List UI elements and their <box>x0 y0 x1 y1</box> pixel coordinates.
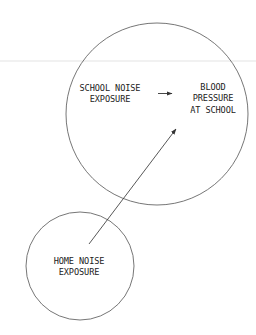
node-label-line: BLOOD <box>187 82 239 93</box>
node-blood-pressure-at-school: BLOOD PRESSURE AT SCHOOL <box>187 82 239 115</box>
node-school-noise-exposure: SCHOOL NOISE EXPOSURE <box>78 82 142 104</box>
node-label-line: PRESSURE <box>187 93 239 104</box>
diagram-canvas <box>0 0 256 335</box>
node-label-line: HOME NOISE <box>51 255 107 266</box>
node-label-line: SCHOOL NOISE <box>78 82 142 93</box>
node-home-noise-exposure: HOME NOISE EXPOSURE <box>51 255 107 277</box>
node-label-line: AT SCHOOL <box>187 104 239 115</box>
node-label-line: EXPOSURE <box>78 93 142 104</box>
node-label-line: EXPOSURE <box>51 266 107 277</box>
